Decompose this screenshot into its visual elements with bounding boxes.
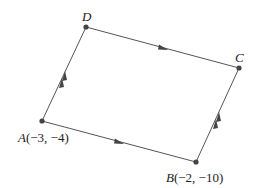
point-b [193,159,198,164]
label-b: B(−2, −10) [166,170,223,185]
point-a [39,118,44,123]
edge-ad [42,27,86,121]
point-c [236,65,241,70]
parallelogram-diagram: D C A(−3, −4) B(−2, −10) [0,0,259,188]
label-c: C [235,50,244,65]
label-a: A(−3, −4) [17,130,69,145]
arrow-dc-icon [158,45,168,51]
edge-bc [196,68,239,162]
point-d [83,24,88,29]
arrow-ab-icon [114,139,124,145]
label-d: D [81,9,92,24]
